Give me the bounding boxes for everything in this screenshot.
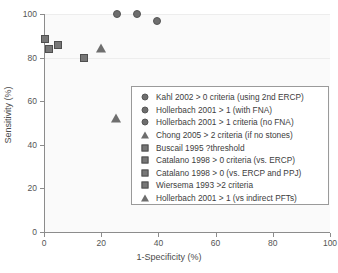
x-axis-title: 1-Specificity (%) bbox=[0, 252, 338, 262]
legend-item[interactable]: Hollerbach 2001 > 1 criteria (no FNA) bbox=[136, 116, 323, 129]
data-point-marker bbox=[96, 43, 106, 52]
legend-item-label: Hollerbach 2001 > 1 criteria (no FNA) bbox=[154, 116, 294, 128]
y-axis-title: Sensitivity (%) bbox=[3, 65, 13, 165]
legend-marker-square-icon bbox=[136, 142, 154, 154]
y-tick-label: 20 bbox=[28, 183, 37, 193]
y-tick-label-wrap: 100 bbox=[0, 14, 37, 15]
x-tick-label: 100 bbox=[323, 238, 337, 248]
data-point-marker bbox=[41, 35, 49, 43]
legend-item-label: Hollerbach 2001 > 1 (vs indirect PFTs) bbox=[154, 192, 297, 204]
legend-marker-circle-icon bbox=[136, 104, 154, 116]
legend-item-label: Buscail 1995 ?threshold bbox=[154, 142, 245, 154]
legend-marker-square-icon bbox=[136, 167, 154, 179]
x-tick-mark bbox=[44, 233, 45, 237]
chart-legend: Kahl 2002 > 0 criteria (using 2nd ERCP)H… bbox=[131, 86, 329, 205]
x-tick-mark bbox=[330, 233, 331, 237]
x-tick-label: 80 bbox=[268, 238, 277, 248]
legend-marker-square-icon bbox=[136, 179, 154, 191]
y-tick-label: 40 bbox=[28, 140, 37, 150]
data-point-marker bbox=[80, 54, 88, 62]
y-tick-label-wrap: 20 bbox=[0, 188, 37, 189]
x-tick-mark bbox=[101, 233, 102, 237]
x-tick-label: 60 bbox=[211, 238, 220, 248]
legend-item[interactable]: Catalano 1998 > 0 (vs. ERCP and PPJ) bbox=[136, 167, 323, 180]
y-tick-label: 100 bbox=[23, 9, 37, 19]
y-tick-mark bbox=[40, 58, 44, 59]
x-tick-mark bbox=[158, 233, 159, 237]
legend-item[interactable]: Buscail 1995 ?threshold bbox=[136, 141, 323, 154]
y-tick-label-wrap: 80 bbox=[0, 58, 37, 59]
x-tick-mark bbox=[216, 233, 217, 237]
data-point-marker bbox=[113, 10, 121, 18]
legend-marker-triangle-icon bbox=[136, 192, 154, 204]
data-point-marker bbox=[54, 41, 62, 49]
x-tick-mark bbox=[273, 233, 274, 237]
y-tick-mark bbox=[40, 14, 44, 15]
gridline bbox=[44, 14, 330, 15]
y-tick-label-wrap: 0 bbox=[0, 232, 37, 233]
x-tick-label: 40 bbox=[154, 238, 163, 248]
legend-item[interactable]: Chong 2005 > 2 criteria (if no stones) bbox=[136, 129, 323, 142]
y-tick-mark bbox=[40, 145, 44, 146]
legend-item[interactable]: Catalano 1998 > 0 criteria (vs. ERCP) bbox=[136, 154, 323, 167]
y-tick-mark bbox=[40, 101, 44, 102]
legend-marker-triangle-icon bbox=[136, 129, 154, 141]
legend-item-label: Catalano 1998 > 0 criteria (vs. ERCP) bbox=[154, 154, 295, 166]
x-axis-line bbox=[44, 232, 330, 233]
data-point-marker bbox=[153, 17, 161, 25]
data-point-marker bbox=[133, 10, 141, 18]
legend-item[interactable]: Wiersema 1993 >2 criteria bbox=[136, 179, 323, 192]
legend-item-label: Hollerbach 2001 > 1 (with FNA) bbox=[154, 104, 272, 116]
y-tick-label: 0 bbox=[32, 227, 37, 237]
legend-marker-square-icon bbox=[136, 154, 154, 166]
scatter-chart: 020406080100 020406080100 1-Specificity … bbox=[0, 0, 338, 273]
legend-item[interactable]: Hollerbach 2001 > 1 (with FNA) bbox=[136, 104, 323, 117]
legend-item-label: Wiersema 1993 >2 criteria bbox=[154, 179, 253, 191]
data-point-marker bbox=[45, 45, 53, 53]
legend-marker-circle-icon bbox=[136, 116, 154, 128]
legend-item[interactable]: Hollerbach 2001 > 1 (vs indirect PFTs) bbox=[136, 192, 323, 205]
x-tick-label: 0 bbox=[42, 238, 47, 248]
legend-item-label: Catalano 1998 > 0 (vs. ERCP and PPJ) bbox=[154, 167, 301, 179]
legend-item-label: Chong 2005 > 2 criteria (if no stones) bbox=[154, 129, 293, 141]
y-tick-label: 80 bbox=[28, 53, 37, 63]
y-tick-mark bbox=[40, 188, 44, 189]
x-tick-label: 20 bbox=[96, 238, 105, 248]
legend-item[interactable]: Kahl 2002 > 0 criteria (using 2nd ERCP) bbox=[136, 91, 323, 104]
legend-item-label: Kahl 2002 > 0 criteria (using 2nd ERCP) bbox=[154, 91, 304, 103]
legend-marker-circle-icon bbox=[136, 91, 154, 103]
data-point-marker bbox=[111, 113, 121, 122]
y-tick-label: 60 bbox=[28, 96, 37, 106]
